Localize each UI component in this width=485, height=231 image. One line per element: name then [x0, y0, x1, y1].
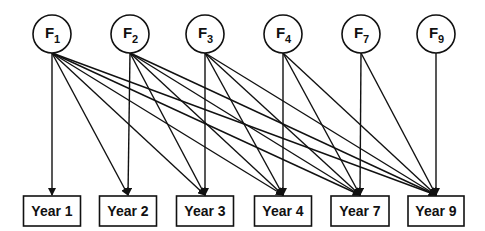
edge-f3-y9	[205, 53, 436, 195]
year-node-y9: Year 9	[408, 196, 464, 226]
years-layer: Year 1Year 2Year 3Year 4Year 7Year 9	[24, 196, 465, 226]
edge-f7-y9	[361, 53, 436, 195]
year-node-y4: Year 4	[255, 196, 312, 226]
factor-node-f7: F7	[342, 15, 380, 53]
edge-f3-y4	[205, 53, 283, 195]
edge-f2-y4	[130, 53, 283, 195]
year-label: Year 2	[107, 203, 148, 219]
edge-f2-y3	[130, 53, 205, 195]
edge-f7-y7	[360, 53, 361, 195]
year-label: Year 3	[184, 203, 225, 219]
edge-f2-y7	[130, 53, 360, 195]
factor-label: F	[354, 24, 363, 41]
factor-label: F	[276, 24, 285, 41]
factor-subscript: 3	[207, 33, 213, 45]
year-label: Year 7	[339, 203, 380, 219]
factor-subscript: 2	[132, 33, 138, 45]
year-label: Year 4	[262, 203, 303, 219]
edge-f2-y2	[128, 53, 130, 195]
year-node-y2: Year 2	[100, 196, 157, 226]
factor-label: F	[45, 24, 54, 41]
factor-node-f3: F3	[186, 15, 224, 53]
year-node-y3: Year 3	[177, 196, 234, 226]
factor-subscript: 1	[54, 33, 60, 45]
factor-node-f1: F1	[33, 15, 71, 53]
edge-f4-y7	[283, 53, 360, 195]
year-node-y7: Year 7	[331, 196, 389, 226]
factor-subscript: 7	[363, 33, 369, 45]
edges-layer	[52, 53, 436, 195]
factor-label: F	[123, 24, 132, 41]
factor-subscript: 4	[285, 33, 292, 45]
factors-layer: F1F2F3F4F7F9	[33, 15, 455, 53]
factor-node-f4: F4	[264, 15, 302, 53]
year-node-y1: Year 1	[24, 196, 81, 226]
factor-node-f2: F2	[111, 15, 149, 53]
factor-subscript: 9	[438, 33, 444, 45]
year-label: Year 9	[415, 203, 456, 219]
edge-f1-y2	[52, 53, 128, 195]
year-label: Year 1	[31, 203, 72, 219]
factor-label: F	[429, 24, 438, 41]
factor-label: F	[198, 24, 207, 41]
factor-node-f9: F9	[417, 15, 455, 53]
path-diagram: F1F2F3F4F7F9 Year 1Year 2Year 3Year 4Yea…	[0, 0, 485, 231]
